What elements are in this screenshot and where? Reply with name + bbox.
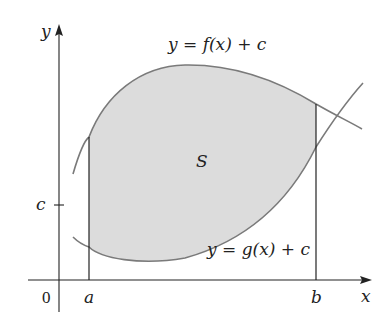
tick-label-b: b <box>311 287 322 307</box>
tick-label-c: c <box>36 194 46 214</box>
diagram-canvas: y x 0 a b c S y = f(x) + c y = g(x) + c <box>0 0 391 322</box>
curve-g-label: y = g(x) + c <box>206 239 310 259</box>
origin-label: 0 <box>42 288 51 307</box>
x-axis-label: x <box>361 286 371 306</box>
y-axis-label: y <box>40 21 51 41</box>
region-label: S <box>196 151 208 171</box>
tick-label-a: a <box>84 287 94 307</box>
curve-f-label: y = f(x) + c <box>167 34 267 54</box>
